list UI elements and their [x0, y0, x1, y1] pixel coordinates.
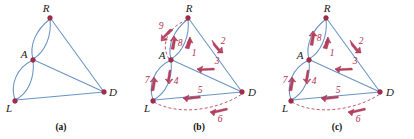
vertex-label-R: R — [42, 2, 50, 14]
arrow-label-3: 3 — [352, 56, 358, 66]
edge-A-D — [34, 60, 104, 92]
arrow-label-5: 5 — [336, 85, 341, 95]
panel-a-vertex-labels: R A L D — [5, 2, 117, 114]
panel-caption-c: (c) — [332, 122, 343, 133]
arrow-label-7: 7 — [283, 75, 289, 85]
panel-caption-a: (a) — [55, 122, 66, 133]
vertex-D — [378, 90, 383, 95]
arrow-4 — [165, 70, 173, 84]
arrow-label-4: 4 — [174, 76, 179, 86]
vertex-label-L: L — [5, 102, 12, 114]
panel-b-arrows — [150, 29, 228, 116]
panel-c-arrows — [288, 31, 366, 116]
arrow-label-8: 8 — [178, 38, 183, 48]
vertex-label-R: R — [185, 2, 193, 14]
panel-c: R A L D 1 2 3 4 5 6 7 8 (c) — [276, 0, 414, 139]
vertex-label-D: D — [247, 86, 256, 98]
panel-b: R A L D 1 2 3 4 5 6 7 8 9 (b) — [138, 0, 276, 139]
three-panel-graph-figure: R A L D (a) — [0, 0, 414, 139]
arrow-3 — [335, 66, 353, 73]
vertex-L — [289, 99, 294, 104]
edge-R-D — [51, 19, 104, 92]
arrow-3 — [197, 66, 215, 73]
vertex-A — [31, 58, 36, 63]
vertex-label-D: D — [385, 86, 394, 98]
edge-A-D — [310, 60, 380, 92]
vertex-label-A: A — [158, 49, 166, 61]
vertex-L — [151, 99, 156, 104]
arrow-4 — [303, 70, 311, 84]
arrow-label-4: 4 — [312, 76, 317, 86]
arrow-label-1: 1 — [192, 48, 197, 58]
vertex-R — [324, 16, 329, 21]
vertex-L — [13, 99, 18, 104]
arrow-label-1: 1 — [330, 48, 335, 58]
vertex-A — [169, 58, 174, 63]
vertex-label-D: D — [108, 86, 117, 98]
arrow-label-2: 2 — [221, 36, 226, 46]
edge-R-A-right — [33, 19, 50, 59]
arrow-label-3: 3 — [214, 56, 220, 66]
panel-a: R A L D (a) — [0, 0, 138, 139]
vertex-R — [48, 16, 53, 21]
vertex-label-A: A — [296, 49, 304, 61]
arrow-label-5: 5 — [198, 85, 203, 95]
arrow-label-7: 7 — [145, 75, 151, 85]
arrow-label-8: 8 — [317, 33, 322, 43]
vertex-A — [307, 58, 312, 63]
vertex-label-L: L — [143, 102, 150, 114]
edge-A-D — [172, 60, 242, 92]
arrow-label-2: 2 — [359, 36, 364, 46]
arrow-label-6: 6 — [356, 114, 361, 124]
panel-caption-b: (b) — [193, 122, 205, 133]
edge-L-D — [16, 92, 104, 100]
vertex-D — [102, 90, 107, 95]
vertex-label-L: L — [281, 102, 288, 114]
vertex-D — [240, 90, 245, 95]
arrow-label-6: 6 — [218, 114, 223, 124]
vertex-label-R: R — [323, 2, 331, 14]
vertex-label-A: A — [20, 48, 28, 60]
vertex-R — [186, 16, 191, 21]
arrow-label-9: 9 — [159, 21, 164, 31]
